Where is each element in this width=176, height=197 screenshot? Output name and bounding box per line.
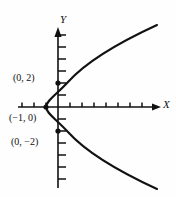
point-label-vertex: (−1, 0) — [9, 113, 36, 123]
x-axis-arrowhead — [152, 103, 161, 110]
y-axis-label: Y — [60, 14, 66, 25]
graph-canvas — [0, 0, 176, 197]
point-label-0-2: (0, 2) — [13, 73, 35, 83]
point-marker-top — [55, 80, 60, 85]
point-label-0-minus2: (0, −2) — [11, 137, 38, 147]
point-marker-bottom — [55, 128, 60, 133]
parabola-figure: Y X (0, 2) (−1, 0) (0, −2) — [0, 0, 176, 197]
point-marker-vertex — [43, 104, 48, 109]
x-axis-label: X — [163, 99, 170, 110]
